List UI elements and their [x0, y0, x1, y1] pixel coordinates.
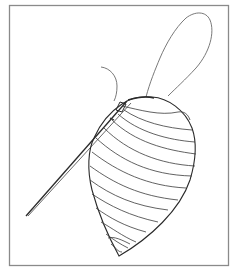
figure-frame: [10, 6, 229, 266]
thread-loop: [146, 13, 212, 97]
pouch-outline: [89, 97, 195, 256]
thread-tail: [101, 67, 117, 101]
figure-canvas: [0, 0, 234, 276]
thread-connector: [128, 97, 154, 100]
suture-illustration: [0, 0, 234, 276]
needle: [26, 101, 131, 216]
